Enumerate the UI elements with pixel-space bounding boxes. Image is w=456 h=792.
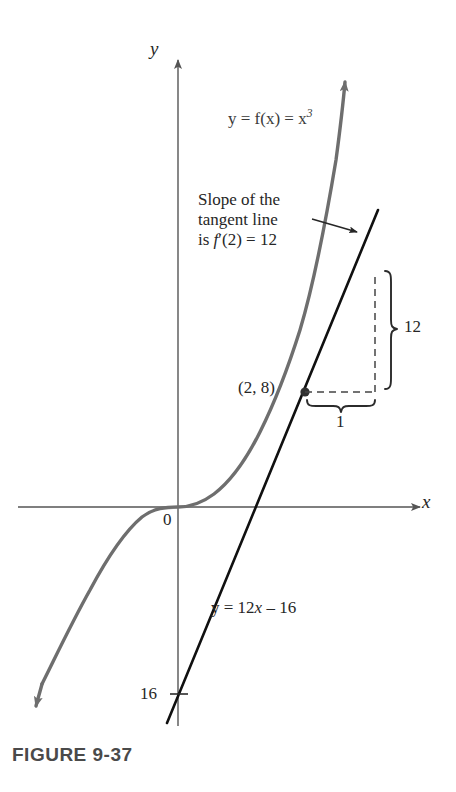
tangency-point-label: (2, 8) <box>238 378 275 398</box>
curve-equation-label: y = f(x) = x3 <box>228 107 312 129</box>
run-brace <box>307 400 375 412</box>
y-intercept-label: 16 <box>140 684 157 704</box>
tangent-equation-prefix: y = 12 <box>211 598 255 617</box>
tangent-equation-suffix: – 16 <box>262 598 296 617</box>
tangent-line <box>167 210 378 723</box>
slope-annotation-line-2: tangent line <box>198 210 280 230</box>
y-axis-label: y <box>150 38 158 60</box>
figure-caption: FIGURE 9-37 <box>12 744 133 766</box>
origin-label: 0 <box>163 510 172 530</box>
tangent-equation-label: y = 12x – 16 <box>211 598 296 618</box>
slope-annotation-line-1: Slope of the <box>198 190 280 210</box>
annotation-pointer-arrow <box>312 219 357 232</box>
curve-exponent: 3 <box>307 107 313 120</box>
curve-equation-text: y = f(x) = x <box>228 109 307 128</box>
slope-annotation-value: ′(2) = 12 <box>218 230 277 249</box>
run-brace-label: 1 <box>336 412 345 432</box>
slope-annotation-prefix: is <box>198 230 214 249</box>
rise-brace-label: 12 <box>404 317 421 337</box>
slope-annotation-line-3: is f′(2) = 12 <box>198 230 280 250</box>
cubic-curve-tail <box>36 684 42 706</box>
rise-brace <box>385 271 397 389</box>
tangent-equation-variable: x <box>255 598 263 617</box>
figure-area: y x 0 y = f(x) = x3 Slope of the tangent… <box>0 0 456 740</box>
slope-annotation: Slope of the tangent line is f′(2) = 12 <box>198 190 280 250</box>
cubic-curve-main <box>42 82 345 684</box>
x-axis-label: x <box>422 491 430 513</box>
